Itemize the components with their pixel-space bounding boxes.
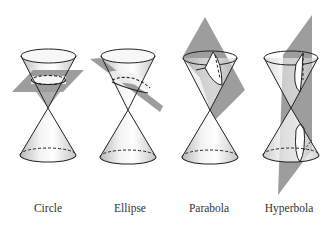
- hyperbola-panel: [263, 15, 319, 195]
- conic-sections-diagram: [0, 0, 329, 226]
- lower-nappe: [100, 110, 156, 164]
- label-parabola: Parabola: [174, 202, 244, 214]
- parabola-panel: [182, 17, 245, 164]
- circle-panel: [12, 49, 84, 162]
- label-ellipse: Ellipse: [95, 202, 165, 214]
- lower-nappe: [182, 110, 238, 164]
- label-hyperbola: Hyperbola: [254, 202, 324, 214]
- cutting-plane: [278, 15, 312, 195]
- label-circle: Circle: [13, 202, 83, 214]
- ellipse-panel: [90, 49, 163, 164]
- upper-cone-rim: [101, 49, 155, 63]
- lower-nappe: [20, 108, 76, 162]
- upper-cone-rim: [21, 49, 76, 63]
